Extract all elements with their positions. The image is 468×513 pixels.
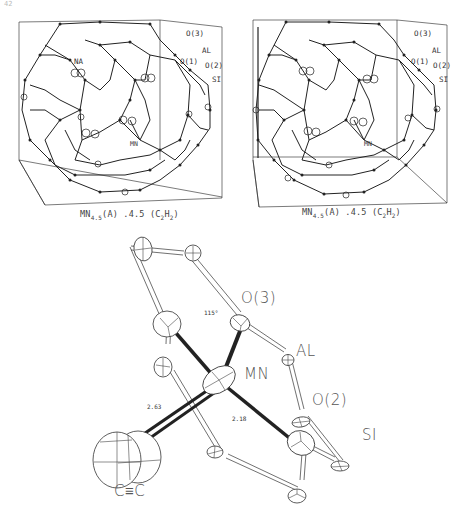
label-si: SI bbox=[212, 75, 221, 84]
label-mn: MN bbox=[244, 365, 269, 383]
right-stereo-panel: O(3) AL O(1) O(2) SI MN MN4.5(A) .4.5 (C… bbox=[234, 0, 468, 230]
label-o3: O(3) bbox=[241, 289, 276, 307]
label-na: NA bbox=[74, 57, 83, 66]
label-al: AL bbox=[296, 342, 316, 360]
ortep-detail-drawing bbox=[0, 230, 468, 513]
label-o3: O(3) bbox=[186, 29, 204, 38]
label-c-triple-c: C≡C bbox=[114, 482, 145, 500]
distance-si-label: 2.18 bbox=[232, 415, 246, 422]
label-al: AL bbox=[202, 46, 211, 55]
label-si: SI bbox=[362, 426, 377, 444]
left-caption: MN4.5(A) .4.5 (C2H2) bbox=[80, 209, 179, 221]
right-caption: MN4.5(A) .4.5 (C2H2) bbox=[302, 207, 401, 219]
zeolite-cage-right-drawing bbox=[234, 0, 468, 215]
left-stereo-panel: O(3) AL O(1) O(2) SI NA MN MN4.5(A) .4.5… bbox=[0, 0, 234, 230]
label-mn: MN bbox=[130, 140, 138, 148]
label-o2: O(2) bbox=[312, 391, 347, 409]
label-o2: O(2) bbox=[433, 61, 451, 70]
label-mn: MN bbox=[364, 140, 372, 148]
label-o2: O(2) bbox=[205, 61, 223, 70]
label-o1: O(1) bbox=[411, 57, 429, 66]
distance-cc-label: 2.63 bbox=[147, 403, 161, 410]
mn-coordination-detail: O(3) AL MN O(2) SI C≡C 115° 2.63 2.18 bbox=[0, 230, 468, 513]
label-o1: O(1) bbox=[180, 57, 198, 66]
label-o3: O(3) bbox=[414, 29, 432, 38]
label-si: SI bbox=[439, 75, 448, 84]
label-al: AL bbox=[432, 46, 441, 55]
angle-label: 115° bbox=[204, 309, 218, 316]
